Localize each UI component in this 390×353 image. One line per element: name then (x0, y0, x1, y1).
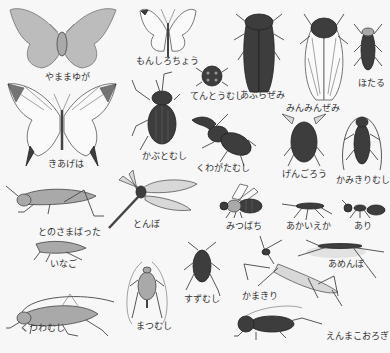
insect-tonbo: とんぼ (105, 170, 200, 232)
label-enmakoorogi: えんまこおろぎ (326, 332, 389, 341)
insect-kabutomushi: かぶとむし (128, 70, 188, 162)
insect-akaieka: あかいえか (280, 194, 334, 230)
insect-tentoumushi: てんとうむし (190, 60, 240, 100)
insect-monshirochou: もんしろちょう (136, 5, 200, 67)
cicada-icon (232, 6, 287, 98)
label-tentoumushi: てんとうむし (190, 92, 244, 101)
label-inago: いなご (50, 260, 77, 269)
rhinoceros-beetle-icon (128, 70, 188, 162)
insect-matsumushi: まつむし (122, 256, 174, 336)
label-akaieka: あかいえか (286, 222, 331, 231)
insect-kutsuwamushi: くつわむし (2, 284, 116, 344)
label-suzumushi: すずむし (184, 295, 220, 304)
grasshopper-icon (4, 182, 108, 226)
label-kamakiri: かまきり (242, 292, 278, 301)
label-matsumushi: まつむし (136, 322, 172, 331)
insect-kamikirimushi: かみきりむし (336, 104, 387, 186)
bell-cricket-icon (180, 240, 228, 302)
katydid-icon (2, 284, 116, 344)
label-tonbo: とんぼ (133, 220, 160, 229)
label-aburazemi: あぶらぜみ (240, 91, 285, 100)
label-kutsuwamushi: くつわむし (20, 324, 65, 333)
insect-inago: いなご (30, 236, 90, 274)
label-ari: あり (354, 222, 372, 231)
insect-enmakoorogi: えんまこおろぎ (232, 302, 387, 346)
label-mitsubachi: みつばち (226, 222, 262, 231)
label-kuwagatamushi: くわがたむし (196, 164, 250, 173)
cicada-icon (294, 8, 354, 108)
insect-ari: あり (340, 198, 387, 230)
insect-yamamayuga: やままゆが (0, 0, 125, 80)
swallowtail-butterfly-icon (4, 80, 120, 168)
label-gengorou: げんごろう (282, 170, 327, 179)
label-kabutomushi: かぶとむし (142, 152, 187, 161)
insect-aburazemi: あぶらぜみ (232, 6, 287, 98)
insect-minminzemi: みんみんぜみ (294, 8, 354, 108)
insect-kuwagatamushi: くわがたむし (188, 110, 260, 174)
insect-kiageha: きあげは (4, 80, 120, 168)
insect-gengorou: げんごろう (280, 110, 330, 180)
insect-mitsubachi: みつばち (210, 184, 274, 230)
longhorn-beetle-icon (336, 104, 387, 186)
insect-suzumushi: すずむし (180, 240, 228, 302)
label-kiageha: きあげは (48, 160, 84, 169)
insect-tonosamabatta: とのさまばった (4, 182, 108, 226)
moth-icon (0, 0, 125, 80)
insect-hotaru: ほたる (350, 22, 387, 92)
label-hotaru: ほたる (358, 79, 385, 88)
label-kamikirimushi: かみきりむし (336, 176, 390, 185)
